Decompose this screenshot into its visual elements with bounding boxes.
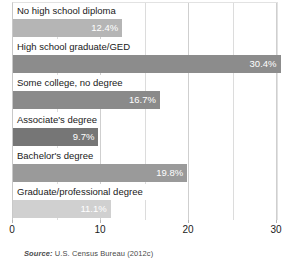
x-tick-mark: [276, 220, 277, 223]
x-tick-label: 20: [182, 224, 193, 235]
bar[interactable]: 19.8%: [13, 164, 187, 182]
x-tick-mark: [188, 220, 189, 223]
bar-category-label: Some college, no degree: [16, 75, 126, 91]
bar-value-label: 9.7%: [73, 128, 95, 146]
bar[interactable]: 16.7%: [13, 91, 160, 109]
bar-group: No high school diploma12.4%: [13, 3, 277, 39]
bar-category-label: Associate's degree: [16, 112, 100, 128]
bar-value-label: 30.4%: [250, 55, 277, 73]
bar-group: Bachelor's degree19.8%: [13, 148, 277, 184]
bar-value-label: 12.4%: [91, 19, 118, 37]
bar-category-label: Graduate/professional degree: [16, 184, 146, 200]
bar-group: Graduate/professional degree11.1%: [13, 184, 277, 220]
source-prefix: Source:: [24, 249, 53, 258]
x-tick-mark: [12, 220, 13, 223]
x-tick-label: 0: [9, 224, 15, 235]
bar[interactable]: 9.7%: [13, 128, 98, 146]
x-tick-label: 10: [94, 224, 105, 235]
source-note: Source: U.S. Census Bureau (2012c): [24, 249, 153, 258]
x-axis: 0102030: [12, 220, 278, 238]
bar-chart-figure: No high school diploma12.4%High school g…: [0, 0, 288, 277]
bar-group: Associate's degree9.7%: [13, 112, 277, 148]
bar-category-label: High school graduate/GED: [16, 39, 133, 55]
bar-category-label: Bachelor's degree: [16, 148, 96, 164]
x-tick-mark: [100, 220, 101, 223]
x-tick-label: 30: [270, 224, 281, 235]
bar-group: Some college, no degree16.7%: [13, 75, 277, 111]
source-text: U.S. Census Bureau (2012c): [53, 249, 154, 258]
bar-value-label: 19.8%: [156, 164, 183, 182]
bar-group: High school graduate/GED30.4%: [13, 39, 277, 75]
bar[interactable]: 11.1%: [13, 200, 111, 218]
bar-value-label: 11.1%: [80, 200, 106, 218]
bar[interactable]: 30.4%: [13, 55, 281, 73]
bar-value-label: 16.7%: [129, 91, 156, 109]
plot-area: No high school diploma12.4%High school g…: [12, 2, 278, 220]
bar[interactable]: 12.4%: [13, 19, 122, 37]
bar-category-label: No high school diploma: [16, 3, 119, 19]
